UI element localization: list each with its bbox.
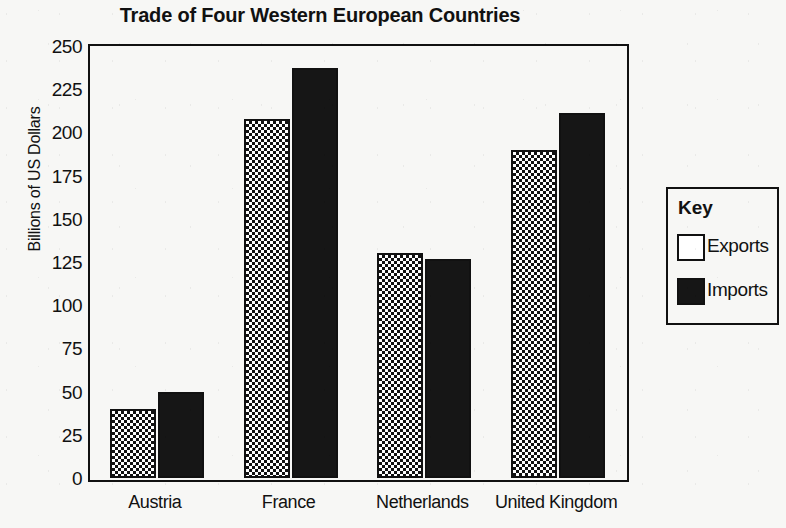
y-tick-label: 75: [2, 339, 82, 358]
y-axis-tick-labels: 2502252001751501251007550250: [0, 44, 82, 478]
bar-group: [90, 46, 224, 478]
x-label-united-kingdom: United Kingdom: [489, 492, 623, 513]
bar-group: [358, 46, 492, 478]
bar-united-kingdom-imports[interactable]: [559, 113, 605, 478]
y-tick-label: 100: [2, 296, 82, 315]
bar-france-exports[interactable]: [244, 119, 290, 478]
bar-group: [491, 46, 625, 478]
y-tick-label: 50: [2, 383, 82, 402]
bar-austria-exports[interactable]: [110, 409, 156, 478]
bar-netherlands-exports[interactable]: [377, 253, 423, 478]
y-tick-label: 125: [2, 253, 82, 272]
bar-austria-imports[interactable]: [158, 392, 204, 478]
bar-united-kingdom-exports[interactable]: [511, 150, 557, 478]
y-tick-label: 25: [2, 426, 82, 445]
legend-key-box: Key Exports Imports: [666, 187, 779, 325]
bar-france-imports[interactable]: [292, 68, 338, 478]
chart-page: Trade of Four Western European Countries…: [0, 0, 786, 528]
y-tick-label: 0: [2, 469, 82, 488]
bar-group: [224, 46, 358, 478]
y-tick-label: 225: [2, 80, 82, 99]
y-tick-label: 150: [2, 210, 82, 229]
legend-title: Key: [678, 197, 713, 219]
bar-netherlands-imports[interactable]: [425, 259, 471, 478]
legend-swatch-exports-icon: [677, 234, 705, 261]
x-label-austria: Austria: [88, 492, 222, 513]
chart-title: Trade of Four Western European Countries: [0, 4, 640, 27]
legend-label-exports: Exports: [707, 235, 769, 257]
x-label-netherlands: Netherlands: [356, 492, 490, 513]
y-tick-label: 175: [2, 167, 82, 186]
y-tick-label: 200: [2, 123, 82, 142]
x-label-france: France: [222, 492, 356, 513]
legend-label-imports: Imports: [707, 279, 768, 301]
legend-swatch-imports-icon: [677, 278, 705, 305]
x-axis-category-labels: AustriaFranceNetherlandsUnited Kingdom: [88, 492, 625, 518]
bars-area: [90, 46, 625, 478]
y-tick-label: 250: [2, 37, 82, 56]
